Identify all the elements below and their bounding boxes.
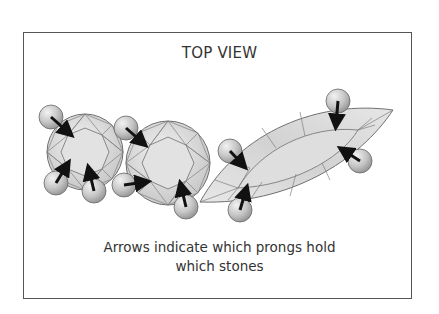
diagram-caption: Arrows indicate which prongs hold which … — [0, 238, 439, 276]
caption-line-2: which stones — [0, 257, 439, 276]
arrow-icon — [336, 101, 338, 124]
caption-line-1: Arrows indicate which prongs hold — [0, 238, 439, 257]
round-stone-large — [126, 121, 210, 205]
